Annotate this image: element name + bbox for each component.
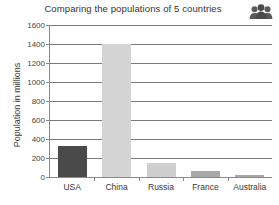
bars-layer [50,25,272,177]
y-tick-mark [46,177,50,178]
bar-usa [58,146,87,177]
x-tick-label-australia: Australia [233,182,266,192]
x-tick-mark [94,177,95,181]
y-tick-label: 200 [32,154,45,163]
chart-title: Comparing the populations of 5 countries [26,3,240,15]
bar-australia [235,175,264,177]
x-tick-label-usa: USA [63,182,80,192]
x-tick-label-france: France [192,182,218,192]
x-tick-label-russia: Russia [148,182,174,192]
y-tick-label: 1400 [27,40,45,49]
bar-russia [147,163,176,177]
y-tick-label: 0 [41,173,45,182]
x-tick-label-china: China [105,182,127,192]
y-tick-label: 1200 [27,59,45,68]
x-axis-line [49,177,272,178]
y-tick-label: 400 [32,135,45,144]
people-group-icon [249,4,273,20]
bar-france [191,171,220,177]
x-tick-mark [183,177,184,181]
y-axis-title: Population in millions [12,40,22,170]
bar-chart: Comparing the populations of 5 countries… [0,0,279,205]
y-tick-label: 600 [32,116,45,125]
bar-china [102,44,131,177]
y-tick-label: 800 [32,97,45,106]
plot-area: 02004006008001000120014001600 [49,25,272,177]
x-tick-mark [228,177,229,181]
y-tick-label: 1600 [27,21,45,30]
x-tick-mark [139,177,140,181]
y-tick-label: 1000 [27,78,45,87]
